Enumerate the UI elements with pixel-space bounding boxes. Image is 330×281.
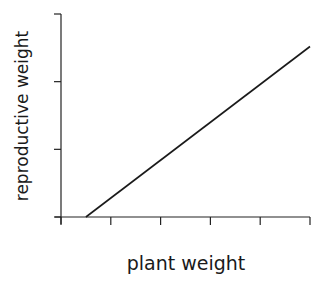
y-axis-label: reproductive weight (12, 30, 32, 201)
data-line (86, 47, 310, 218)
y-axis-ticks (54, 14, 61, 217)
x-axis-label: plant weight (127, 252, 246, 274)
y-axis (54, 14, 61, 224)
line-chart: plant weight reproductive weight (0, 0, 330, 281)
x-axis-ticks (61, 217, 310, 225)
x-axis (55, 217, 310, 225)
